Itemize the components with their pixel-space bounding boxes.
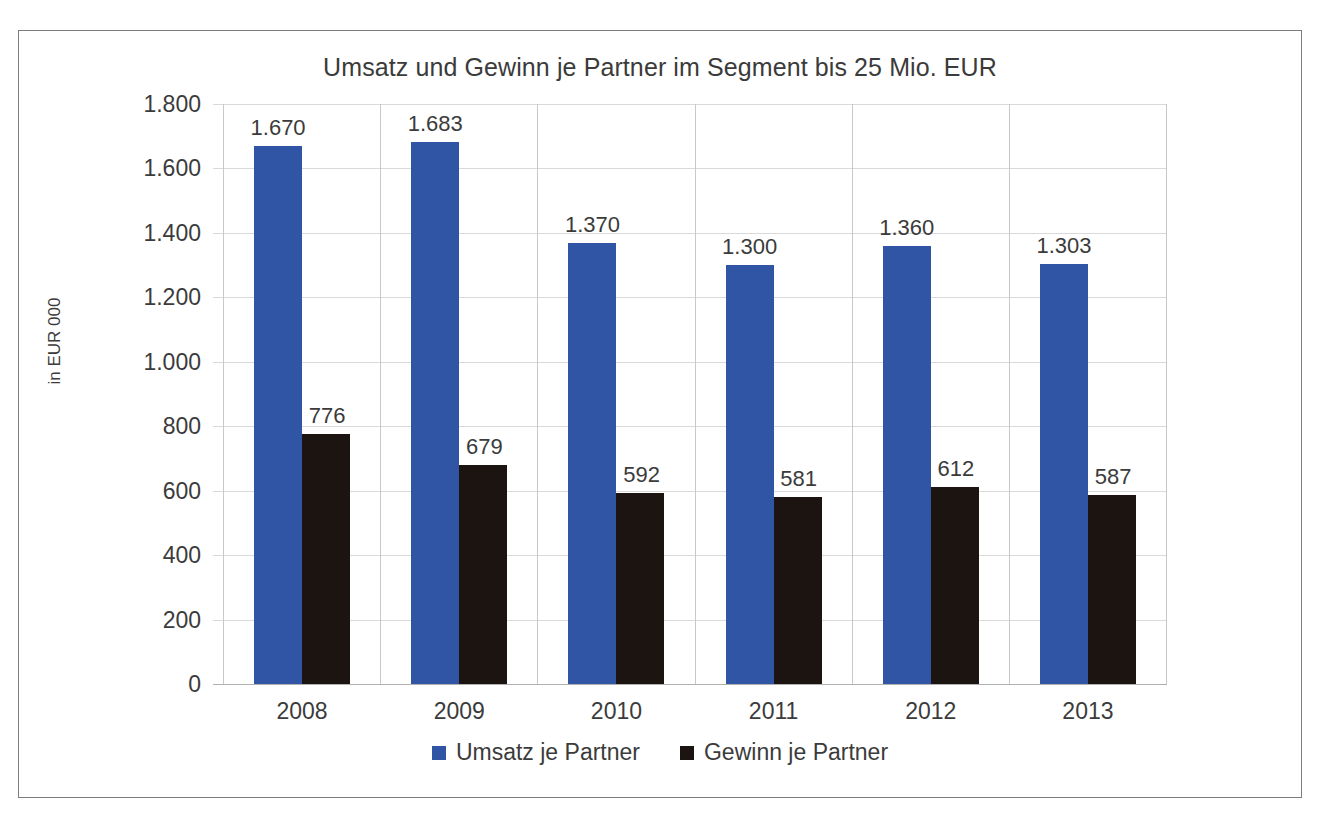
bar-umsatz[interactable]: 1.370	[568, 243, 616, 684]
bar-pair: 1.683679	[381, 104, 537, 684]
bar-gewinn[interactable]: 679	[459, 465, 507, 684]
chart-legend: Umsatz je PartnerGewinn je Partner	[19, 739, 1301, 766]
x-axis-line	[213, 684, 1167, 685]
legend-item[interactable]: Umsatz je Partner	[432, 739, 640, 766]
bar-pair: 1.300581	[696, 104, 852, 684]
bar-gewinn[interactable]: 587	[1088, 495, 1136, 684]
bar-value-label: 1.370	[565, 212, 620, 238]
bar-gewinn[interactable]: 612	[931, 487, 979, 684]
bar-groups: 1.67077620081.68367920091.37059220101.30…	[223, 104, 1167, 684]
bar-value-label: 587	[1095, 464, 1132, 490]
bar-value-label: 1.670	[251, 115, 306, 141]
bar-value-label: 1.300	[722, 234, 777, 260]
legend-swatch-icon	[432, 746, 446, 760]
plot-area: 1.8001.6001.4001.2001.0008006004002000 1…	[223, 104, 1167, 684]
bar-group: 1.6836792009	[381, 104, 538, 684]
y-axis-tick-label: 1.000	[143, 348, 201, 375]
bar-gewinn[interactable]: 776	[302, 434, 350, 684]
bar-value-label: 679	[466, 434, 503, 460]
y-axis-tick-label: 800	[163, 413, 201, 440]
y-axis-tick-label: 600	[163, 477, 201, 504]
y-axis-tick-label: 1.400	[143, 219, 201, 246]
y-axis-tick-label: 400	[163, 542, 201, 569]
bar-pair: 1.303587	[1010, 104, 1166, 684]
legend-swatch-icon	[680, 746, 694, 760]
bar-value-label: 592	[623, 462, 660, 488]
x-axis-category-label: 2013	[1010, 698, 1166, 725]
x-axis-category-label: 2012	[853, 698, 1009, 725]
x-axis-category-label: 2009	[381, 698, 537, 725]
bar-value-label: 1.303	[1036, 233, 1091, 259]
bar-gewinn[interactable]: 581	[774, 497, 822, 684]
bar-gewinn[interactable]: 592	[616, 493, 664, 684]
chart-container: Umsatz und Gewinn je Partner im Segment …	[18, 30, 1302, 798]
chart-title: Umsatz und Gewinn je Partner im Segment …	[19, 53, 1301, 82]
y-axis-title: in EUR 000	[45, 261, 65, 421]
bar-umsatz[interactable]: 1.303	[1040, 264, 1088, 684]
y-axis-tick-label: 1.200	[143, 284, 201, 311]
bar-group: 1.3705922010	[538, 104, 695, 684]
bar-value-label: 1.683	[408, 111, 463, 137]
bar-value-label: 612	[938, 456, 975, 482]
bar-value-label: 581	[780, 466, 817, 492]
bar-value-label: 1.360	[879, 215, 934, 241]
bar-pair: 1.360612	[853, 104, 1009, 684]
legend-label: Umsatz je Partner	[456, 739, 640, 766]
legend-label: Gewinn je Partner	[704, 739, 888, 766]
x-axis-category-label: 2011	[696, 698, 852, 725]
bar-group: 1.6707762008	[223, 104, 381, 684]
bar-group: 1.3005812011	[696, 104, 853, 684]
x-axis-category-label: 2008	[224, 698, 380, 725]
bar-group: 1.3606122012	[853, 104, 1010, 684]
bar-umsatz[interactable]: 1.670	[254, 146, 302, 684]
bar-value-label: 776	[309, 403, 346, 429]
bar-group: 1.3035872013	[1010, 104, 1167, 684]
y-axis-tick-label: 0	[188, 671, 201, 698]
bar-pair: 1.670776	[224, 104, 380, 684]
x-axis-category-label: 2010	[538, 698, 694, 725]
y-axis-tick-label: 200	[163, 606, 201, 633]
bar-umsatz[interactable]: 1.300	[726, 265, 774, 684]
bar-umsatz[interactable]: 1.683	[411, 142, 459, 684]
legend-item[interactable]: Gewinn je Partner	[680, 739, 888, 766]
bar-pair: 1.370592	[538, 104, 694, 684]
y-axis-tick-label: 1.600	[143, 155, 201, 182]
bar-umsatz[interactable]: 1.360	[883, 246, 931, 684]
y-axis-tick-label: 1.800	[143, 91, 201, 118]
